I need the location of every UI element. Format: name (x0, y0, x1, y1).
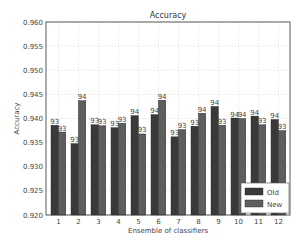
y-tick-label: 0.960 (23, 19, 43, 27)
bar-value-label: 93 (218, 118, 227, 126)
bar-value-label: 94 (158, 93, 167, 101)
bar-old (111, 128, 118, 215)
bar-new (218, 125, 225, 215)
x-tick-label: 8 (196, 218, 200, 226)
bar-old (151, 115, 158, 215)
bar-value-label: 94 (130, 108, 139, 116)
x-tick-label: 9 (216, 218, 220, 226)
bar-value-label: 94 (210, 99, 219, 107)
bar-value-label: 93 (70, 136, 79, 144)
y-tick-label: 0.950 (23, 67, 43, 75)
y-tick-label: 0.925 (23, 187, 43, 195)
y-tick-label: 0.930 (23, 163, 43, 171)
bar-old (51, 125, 58, 215)
bar-value-label: 94 (270, 112, 279, 120)
x-tick-label: 4 (116, 218, 121, 226)
bar-value-label: 93 (178, 122, 187, 130)
x-axis-label: Ensemble of classifiers (128, 227, 208, 235)
x-tick-label: 5 (136, 218, 140, 226)
bar-old (71, 144, 78, 215)
legend: OldNew (241, 183, 289, 213)
bar-new (118, 123, 125, 215)
bar-value-label: 93 (98, 118, 107, 126)
bar-value-label: 93 (278, 123, 287, 131)
bar-new (138, 134, 145, 215)
y-tick-label: 0.945 (23, 91, 43, 99)
x-tick-label: 3 (96, 218, 100, 226)
legend-swatch-new (245, 200, 263, 207)
bar-old (191, 126, 198, 215)
bar-new (78, 101, 85, 215)
bar-value-label: 94 (198, 106, 207, 114)
x-tick-label: 11 (254, 218, 263, 226)
x-tick-label: 10 (234, 218, 243, 226)
bar-old (91, 125, 98, 215)
bar-old (231, 118, 238, 215)
legend-label-old: Old (267, 189, 279, 197)
bar-value-label: 93 (118, 116, 127, 124)
bar-value-label: 94 (78, 93, 87, 101)
legend-swatch-old (245, 188, 263, 195)
y-tick-label: 0.940 (23, 115, 43, 123)
y-axis-ticks: 0.9200.9250.9300.9350.9400.9450.9500.955… (23, 19, 43, 220)
chart-title: Accuracy (150, 11, 187, 20)
bar-value-label: 93 (170, 129, 179, 137)
x-axis-ticks: 123456789101112 (56, 218, 283, 226)
x-tick-label: 2 (76, 218, 80, 226)
x-tick-label: 1 (56, 218, 60, 226)
bar-new (98, 126, 105, 215)
legend-box (241, 183, 289, 213)
bar-value-label: 94 (150, 107, 159, 115)
bar-old (171, 137, 178, 215)
x-tick-label: 6 (156, 218, 161, 226)
bar-value-label: 93 (258, 117, 267, 125)
bar-value-label: 94 (250, 109, 259, 117)
y-tick-label: 0.955 (23, 43, 43, 51)
bar-new (158, 100, 165, 215)
bar-new (178, 130, 185, 215)
x-tick-label: 12 (274, 218, 283, 226)
bar-value-label: 93 (190, 119, 199, 127)
bar-value-label: 93 (58, 125, 67, 133)
accuracy-bar-chart: 9393939493939393949394949393939494939494… (0, 0, 305, 242)
y-tick-label: 0.935 (23, 139, 43, 147)
bar-new (198, 113, 205, 215)
y-tick-label: 0.920 (23, 212, 43, 220)
bar-new (58, 132, 65, 215)
bar-value-label: 93 (138, 126, 147, 134)
legend-label-new: New (267, 201, 283, 209)
y-axis-label: Accuracy (13, 103, 21, 135)
bar-value-label: 94 (238, 111, 247, 119)
x-tick-label: 7 (176, 218, 180, 226)
